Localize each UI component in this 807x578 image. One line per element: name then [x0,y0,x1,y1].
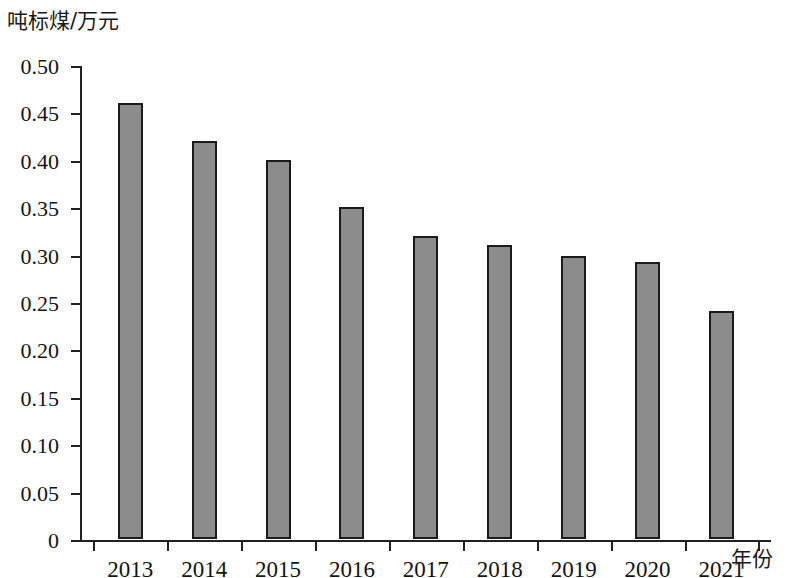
bar-2014 [192,141,217,539]
y-tick-label: 0.45 [21,103,60,125]
x-category-label-2020: 2020 [625,558,671,578]
x-axis-line [80,540,771,542]
y-tick: 0.20 [71,350,80,352]
bar-2020 [635,262,660,539]
y-axis-line [80,66,82,542]
y-tick-label: 0.05 [21,483,60,505]
x-tick [389,542,391,551]
x-tick [685,542,687,551]
x-axis-title: 年份 [731,542,773,572]
x-category-label-2014: 2014 [181,558,227,578]
y-tick-label: 0.50 [21,56,60,78]
x-tick [93,542,95,551]
y-axis-title: 吨标煤/万元 [7,4,119,34]
y-tick: 0.35 [71,208,80,210]
x-category-label-2015: 2015 [255,558,301,578]
y-tick: 0.50 [71,66,80,68]
y-tick-label: 0.35 [21,198,60,220]
y-tick-label: 0.20 [21,340,60,362]
y-tick-label: 0.30 [21,246,60,268]
bar-chart: 吨标煤/万元 00.050.100.150.200.250.300.350.40… [0,0,807,578]
x-category-label-2017: 2017 [403,558,449,578]
y-tick: 0.30 [71,256,80,258]
x-category-label-2018: 2018 [477,558,523,578]
y-tick: 0.10 [71,445,80,447]
y-tick: 0.40 [71,161,80,163]
x-tick [463,542,465,551]
x-tick [611,542,613,551]
y-tick-label: 0.15 [21,388,60,410]
bar-2013 [118,103,143,539]
bar-2018 [487,245,512,539]
x-tick [315,542,317,551]
y-tick: 0.45 [71,113,80,115]
x-tick [241,542,243,551]
x-category-label-2016: 2016 [329,558,375,578]
x-category-label-2019: 2019 [551,558,597,578]
y-tick: 0.25 [71,303,80,305]
y-tick-label: 0.10 [21,435,60,457]
y-tick-label: 0 [48,530,59,552]
bar-2017 [413,236,438,539]
x-tick [537,542,539,551]
bar-2019 [561,256,586,539]
y-tick-label: 0.25 [21,293,60,315]
plot-area: 00.050.100.150.200.250.300.350.400.450.5… [80,66,771,541]
y-tick: 0.15 [71,398,80,400]
bar-2016 [339,207,364,539]
x-category-label-2013: 2013 [107,558,153,578]
bar-2021 [709,311,734,539]
y-tick: 0.05 [71,493,80,495]
bar-2015 [266,160,291,539]
y-tick: 0 [71,540,80,542]
x-tick [167,542,169,551]
y-tick-label: 0.40 [21,151,60,173]
